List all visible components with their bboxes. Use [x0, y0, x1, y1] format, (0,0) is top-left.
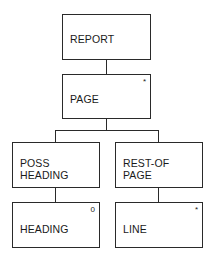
node-heading: HEADING 0: [12, 202, 100, 248]
node-rest-of-page: REST-OF PAGE: [115, 142, 203, 188]
connector-to-poss-heading: [55, 130, 56, 142]
iteration-marker: *: [195, 206, 198, 214]
node-line: LINE *: [115, 202, 203, 248]
connector-rest-of-page-line: [158, 188, 159, 202]
connector-to-rest-of-page: [158, 130, 159, 142]
connector-report-page: [106, 60, 107, 74]
node-label: LINE: [123, 223, 147, 235]
node-label: REST-OF PAGE: [123, 157, 169, 181]
connector-page-down: [106, 119, 107, 130]
iteration-marker: *: [143, 78, 146, 86]
connector-poss-heading-heading: [55, 188, 56, 202]
node-report: REPORT: [62, 14, 151, 60]
selection-marker: 0: [91, 206, 95, 214]
node-label: PAGE: [70, 93, 99, 105]
connector-horizontal: [55, 130, 159, 131]
node-poss-heading: POSS HEADING: [12, 142, 100, 188]
node-label: POSS HEADING: [20, 157, 69, 181]
node-label: REPORT: [70, 33, 114, 45]
node-page: PAGE *: [62, 74, 151, 119]
node-label: HEADING: [20, 223, 69, 235]
